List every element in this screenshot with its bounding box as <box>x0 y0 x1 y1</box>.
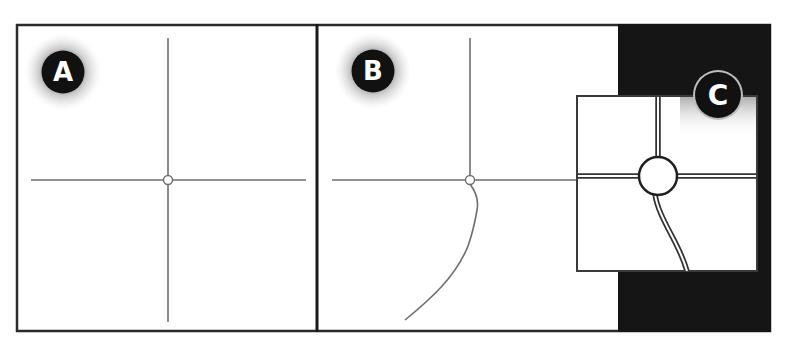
badge-b: B <box>335 33 411 109</box>
badge-label-a: A <box>53 57 73 87</box>
node-b <box>466 176 475 185</box>
badge-c: C <box>693 70 743 120</box>
badge-a: A <box>25 34 101 110</box>
node-a <box>164 176 173 185</box>
panel-c: C <box>577 70 757 271</box>
roundabout-c <box>639 157 677 195</box>
badge-label-b: B <box>363 56 383 86</box>
diagram-canvas: A B <box>0 0 785 343</box>
badge-label-c: C <box>708 79 729 112</box>
